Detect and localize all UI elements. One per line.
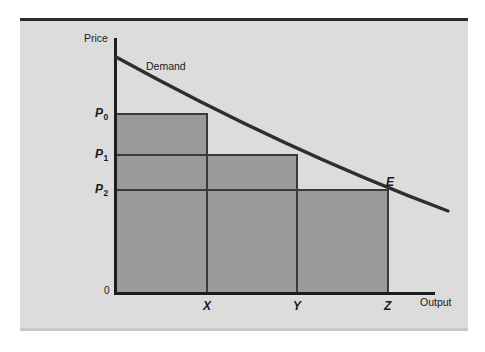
demand-curve-label: Demand [146,61,186,72]
y-tick-label-P2: P2 [95,183,108,195]
x-axis-label: Output [420,297,452,308]
y-tick-base-P1: P [95,147,103,161]
y-tick-sub-P0: 0 [104,112,109,122]
y-tick-base-P2: P [95,182,103,196]
demand-curve [116,57,448,211]
y-tick-label-P0: P0 [95,107,108,119]
y-tick-base-P0: P [95,106,103,120]
x-tick-label-Z: Z [384,300,391,312]
figure-canvas: Price Output 0 P0 P1 P2 X Y Z Demand E [0,0,485,352]
x-tick-label-X: X [203,300,211,312]
plot-area: Price Output 0 P0 P1 P2 X Y Z Demand E [0,0,485,352]
y-tick-label-P1: P1 [95,148,108,160]
x-tick-label-Y: Y [293,300,301,312]
y-axis-label: Price [84,33,108,44]
equilibrium-point-label: E [386,176,394,188]
origin-label: 0 [104,286,110,296]
y-tick-sub-P2: 2 [104,188,109,198]
demand-curve-layer [0,0,485,352]
y-tick-sub-P1: 1 [104,153,109,163]
